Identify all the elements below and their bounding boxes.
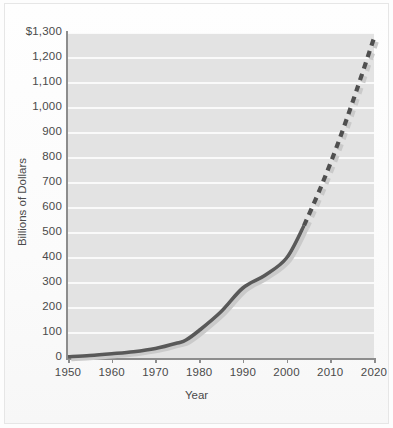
chart-figure: 01002003004005006007008009001,0001,1001,…	[0, 0, 393, 428]
gridline	[68, 282, 374, 284]
x-axis-tick-label: 1950	[44, 366, 92, 378]
x-axis-tick-label: 2010	[306, 366, 354, 378]
x-axis-tick-mark	[287, 358, 289, 363]
x-axis-tick-mark	[112, 358, 114, 363]
y-axis-line	[66, 31, 68, 360]
y-axis-tick-label: 1,000	[0, 100, 62, 112]
x-axis-tick-mark	[68, 358, 70, 363]
x-axis-tick-mark	[374, 358, 376, 363]
gridline	[68, 332, 374, 334]
gridline	[68, 307, 374, 309]
gridline	[68, 182, 374, 184]
x-axis-tick-label: 2020	[350, 366, 393, 378]
y-axis-tick-label: 400	[0, 250, 62, 262]
gridline	[68, 33, 374, 34]
y-axis-tick-labels: 01002003004005006007008009001,0001,1001,…	[0, 0, 62, 428]
y-axis-title: Billions of Dollars	[16, 142, 28, 262]
y-axis-tick-label: 700	[0, 175, 62, 187]
y-axis-tick-label: 600	[0, 200, 62, 212]
x-axis-tick-label: 1980	[175, 366, 223, 378]
y-axis-tick-label: 100	[0, 325, 62, 337]
y-axis-tick-label: 300	[0, 275, 62, 287]
x-axis-tick-mark	[155, 358, 157, 363]
y-axis-tick-label: 500	[0, 225, 62, 237]
y-axis-tick-label: 200	[0, 300, 62, 312]
gridline	[68, 132, 374, 134]
gridline	[68, 82, 374, 84]
gridline	[68, 107, 374, 109]
y-axis-tick-label: 900	[0, 125, 62, 137]
x-axis-tick-label: 1960	[88, 366, 136, 378]
x-axis-title: Year	[0, 389, 393, 401]
x-axis-tick-label: 2000	[263, 366, 311, 378]
gridline	[68, 207, 374, 209]
plot-area	[68, 33, 374, 358]
y-axis-tick-label: 1,100	[0, 75, 62, 87]
x-axis-tick-label: 1990	[219, 366, 267, 378]
gridline	[68, 232, 374, 234]
y-axis-tick-label: 0	[0, 350, 62, 362]
gridline	[68, 257, 374, 259]
y-axis-tick-label: 1,200	[0, 50, 62, 62]
x-axis-tick-mark	[243, 358, 245, 363]
x-axis-tick-label: 1970	[131, 366, 179, 378]
y-axis-tick-label: 800	[0, 150, 62, 162]
gridline	[68, 57, 374, 59]
x-axis-tick-mark	[199, 358, 201, 363]
x-axis-tick-mark	[330, 358, 332, 363]
y-axis-tick-label: $1,300	[0, 25, 62, 37]
gridline	[68, 157, 374, 159]
